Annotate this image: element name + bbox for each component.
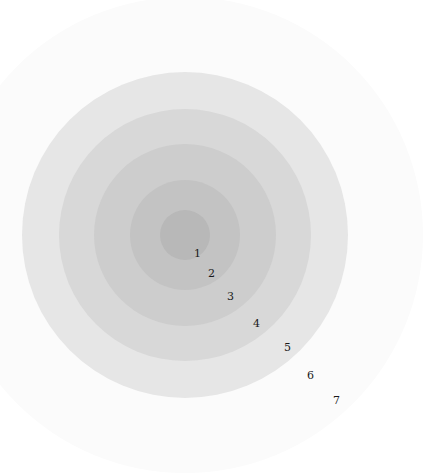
- ring-level-2: [160, 210, 210, 260]
- ring-label-6: 6: [307, 370, 314, 381]
- ring-label-3: 3: [227, 291, 234, 302]
- ring-label-4: 4: [253, 318, 260, 329]
- ring-label-7: 7: [333, 395, 340, 406]
- ring-label-2: 2: [208, 268, 215, 279]
- ring-label-1: 1: [194, 248, 201, 259]
- ring-label-5: 5: [284, 342, 291, 353]
